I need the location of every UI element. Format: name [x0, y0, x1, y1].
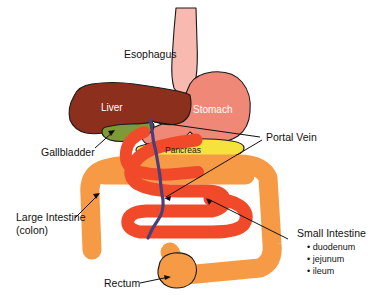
label-duodenum: • duodenum: [307, 242, 355, 252]
label-liver: Liver: [101, 102, 123, 113]
digestive-system-diagram: Esophagus Liver Stomach Pancreas Gallbla…: [0, 0, 381, 306]
label-rectum: Rectum: [104, 277, 140, 289]
label-ileum: • ileum: [307, 266, 334, 276]
label-gallbladder: Gallbladder: [41, 146, 95, 158]
label-portal-vein: Portal Vein: [266, 131, 317, 143]
label-small-intestine: Small Intestine: [297, 227, 366, 239]
label-pancreas: Pancreas: [165, 145, 201, 155]
rectum-shape: [158, 253, 197, 288]
label-esophagus: Esophagus: [124, 48, 177, 60]
label-large-intestine: Large Intestine: [16, 211, 86, 223]
label-large-intestine-sub: (colon): [16, 224, 48, 236]
label-stomach: Stomach: [193, 104, 232, 115]
label-jejunum: • jejunum: [307, 254, 344, 264]
anatomy-illustration: Esophagus Liver Stomach Pancreas Gallbla…: [0, 0, 381, 306]
